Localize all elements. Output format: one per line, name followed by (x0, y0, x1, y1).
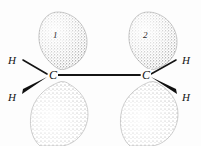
orbital-label-2: 2 (143, 31, 148, 40)
bond-c-left-h-upper (23, 60, 47, 74)
orbital-diagram-figure: H H H H C C 1 2 (0, 0, 201, 146)
hydrogen-label-upper-left: H (8, 55, 16, 66)
bond-c-right-h-upper (151, 60, 176, 74)
hydrogen-label-upper-right: H (182, 55, 190, 66)
bond-c-right-h-lower (151, 77, 177, 94)
hydrogen-label-lower-left: H (8, 92, 16, 103)
carbon-label-right: C (141, 69, 151, 81)
carbon-label-left: C (48, 69, 58, 81)
bond-skeleton-layer (0, 0, 201, 146)
hydrogen-label-lower-right: H (182, 92, 190, 103)
bond-c-left-h-lower (22, 77, 47, 94)
orbital-label-1: 1 (53, 31, 58, 40)
